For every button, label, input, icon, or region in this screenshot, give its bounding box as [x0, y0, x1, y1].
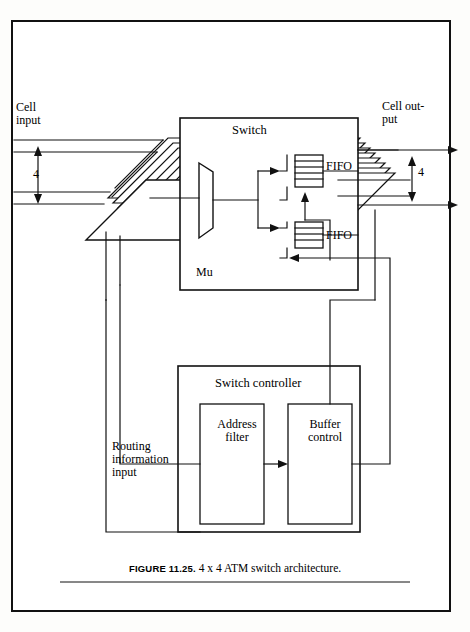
figure-caption-label: FIGURE 11.25.	[129, 563, 196, 574]
address-filter-label: Address filter	[208, 418, 266, 444]
routing-input-label: Routing information input	[112, 440, 184, 479]
fifo-top-label: FIFO	[326, 160, 352, 173]
multiplexer-shape	[199, 163, 213, 238]
cell-output-label: Cell out- put	[382, 100, 452, 126]
figure-caption: FIGURE 11.25. 4 x 4 ATM switch architect…	[60, 562, 410, 574]
output-count-label: 4	[418, 166, 424, 179]
switch-controller-label: Switch controller	[215, 377, 301, 390]
switch-architecture-diagram	[0, 0, 470, 632]
figure-page: Cell input 4 Cell out- put 4 Switch Mu F…	[0, 0, 470, 632]
output-count-bracket	[408, 156, 416, 202]
figure-caption-text: 4 x 4 ATM switch architecture.	[199, 562, 341, 574]
cell-input-label: Cell input	[16, 101, 70, 127]
switch-label: Switch	[232, 124, 267, 137]
buffer-control-label: Buffer control	[296, 418, 354, 444]
input-count-label: 4	[33, 168, 39, 181]
fifo-bottom-label: FIFO	[326, 229, 352, 242]
mux-label: Mu	[196, 266, 213, 279]
